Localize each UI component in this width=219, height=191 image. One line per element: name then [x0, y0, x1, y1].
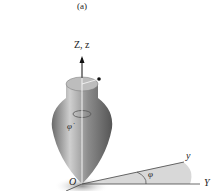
spinning-top-diagram [0, 0, 219, 191]
z-axis-arrow-icon [80, 56, 85, 63]
origin-label: O [69, 177, 76, 187]
phi-label: φ [148, 170, 153, 179]
Y-fixed-label: Y [204, 178, 210, 188]
z-axis-label: Z, z [74, 40, 90, 50]
phi-dot-label: φ̇ [67, 122, 72, 131]
point-marker [97, 77, 101, 81]
caption: (a) [77, 2, 87, 11]
y-rot-label: y [186, 151, 190, 161]
